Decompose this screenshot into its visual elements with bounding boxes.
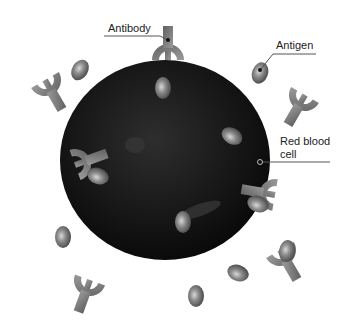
label-red-blood-cell-line1: Red blood [280,135,330,147]
antigen-left-lower [55,226,71,248]
antibody-left-top [31,72,76,117]
antibody-top [152,26,184,60]
antigen-bottom-mid [225,262,251,285]
antigen-top-right [249,60,272,86]
label-red-blood-cell-line2: cell [280,148,297,160]
antigen-cell-bottom [175,211,191,233]
antigen-top [155,77,171,99]
leader-antibody [104,36,170,42]
antigen-top-left [68,56,93,83]
antibody-right-top [274,87,319,132]
antigen-bottom [188,285,204,307]
label-antigen: Antigen [276,39,313,51]
diagram-canvas: Antibody Antigen Red blood cell [0,0,351,333]
antibody-bottom-left [63,275,105,318]
label-antibody: Antibody [108,22,151,34]
